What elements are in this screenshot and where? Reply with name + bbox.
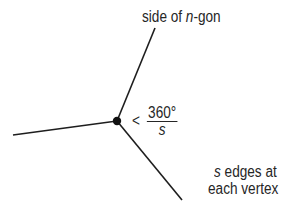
edges-note-line1-text: edges at xyxy=(221,163,277,180)
vertex-dot xyxy=(113,117,121,125)
fraction-denominator: s xyxy=(146,122,178,138)
polygon-variable-n: n xyxy=(186,8,194,25)
polygon-side-prefix: side of xyxy=(142,8,186,25)
fraction-numerator: 360° xyxy=(146,104,178,121)
polygon-side-label: side of n-gon xyxy=(142,9,221,25)
edges-variable-s: s xyxy=(214,163,221,180)
edges-note-line2: each vertex xyxy=(208,181,278,197)
angle-fraction: 360° s xyxy=(146,104,178,138)
edge-left xyxy=(13,121,117,135)
polygon-side-suffix: -gon xyxy=(193,8,220,25)
edges-note-line1: s edges at xyxy=(214,164,277,180)
less-than-symbol: < xyxy=(132,113,140,129)
